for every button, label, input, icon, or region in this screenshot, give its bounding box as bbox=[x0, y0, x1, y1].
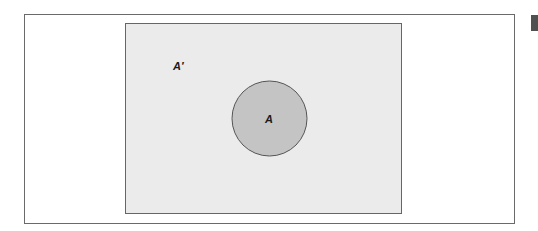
complement-label: A′ bbox=[172, 60, 185, 72]
set-a-label: A bbox=[264, 113, 273, 125]
venn-diagram: A′ A bbox=[0, 0, 538, 231]
